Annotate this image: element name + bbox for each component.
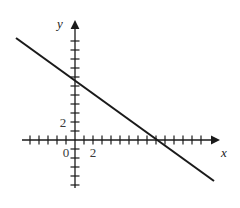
y-axis-label: y	[55, 16, 63, 31]
x-tick-label-2: 2	[90, 145, 97, 160]
coordinate-plot: y x 0 2 2	[0, 0, 240, 208]
x-axis-label: x	[220, 145, 227, 160]
y-tick-label-2: 2	[60, 115, 67, 130]
figure-root: y x 0 2 2	[0, 0, 240, 208]
plot-background	[0, 0, 240, 208]
origin-tick-label: 0	[63, 145, 70, 160]
